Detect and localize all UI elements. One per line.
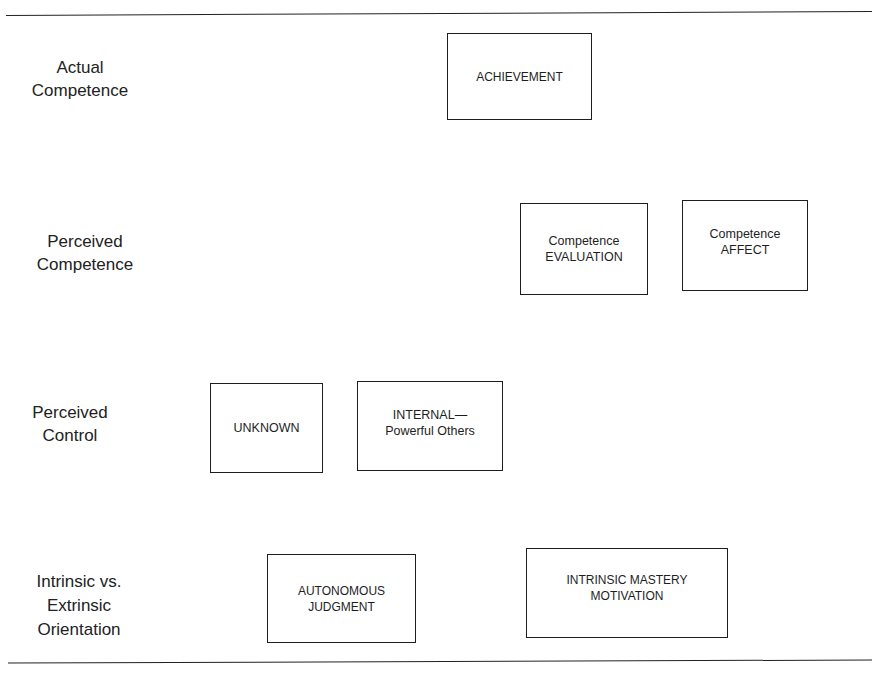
- box-unknown: UNKNOWN: [210, 383, 323, 473]
- box-internal-powerful-others: INTERNAL— Powerful Others: [357, 381, 503, 471]
- box-internal-powerful-others-text: INTERNAL— Powerful Others: [385, 407, 475, 439]
- box-competence-affect: Competence AFFECT: [682, 200, 808, 291]
- box-intrinsic-mastery-motivation: INTRINSIC MASTERY MOTIVATION: [526, 548, 728, 638]
- row-label-perceived-competence: Perceived Competence: [20, 230, 150, 276]
- bottom-rule: [8, 659, 872, 663]
- box-autonomous-judgment-text: AUTONOMOUS JUDGMENT: [298, 583, 385, 615]
- row-label-intrinsic-extrinsic-orientation: Intrinsic vs. Extrinsic Orientation: [20, 570, 138, 642]
- box-achievement: ACHIEVEMENT: [447, 33, 592, 120]
- row-label-actual-competence: Actual Competence: [20, 56, 140, 102]
- row-label-perceived-control: Perceived Control: [20, 401, 120, 447]
- box-intrinsic-mastery-motivation-text: INTRINSIC MASTERY MOTIVATION: [566, 572, 687, 604]
- top-rule: [6, 11, 872, 16]
- box-unknown-text: UNKNOWN: [234, 420, 300, 436]
- box-autonomous-judgment: AUTONOMOUS JUDGMENT: [267, 554, 416, 643]
- box-competence-evaluation: Competence EVALUATION: [520, 203, 648, 295]
- box-achievement-text: ACHIEVEMENT: [476, 69, 563, 85]
- box-competence-affect-text: Competence AFFECT: [710, 226, 781, 258]
- box-competence-evaluation-text: Competence EVALUATION: [545, 233, 622, 265]
